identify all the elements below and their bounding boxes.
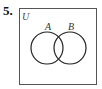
venn-diagram: U A B <box>0 0 102 89</box>
universe-label: U <box>22 11 30 22</box>
set-a-label: A <box>44 21 52 32</box>
set-b-circle <box>54 32 86 64</box>
set-b-label: B <box>68 21 74 32</box>
